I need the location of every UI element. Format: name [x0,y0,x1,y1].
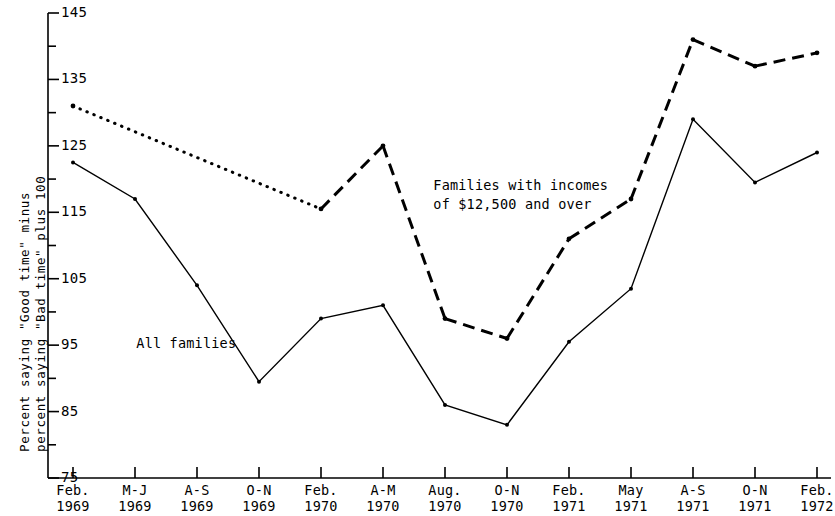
annotation-high-income: Families with incomes of $12,500 and ove… [400,157,608,233]
y-axis-title: Percent saying "Good time" minus percent… [0,0,46,516]
chart-axes [48,13,831,478]
y-tick-label: 95 [61,336,78,352]
annotation-all-families-label: All families [136,335,236,351]
x-tick-label: Feb.1972 [777,482,835,514]
y-axis-title-line-2: percent saying "Bad time" plus 100 [33,176,48,452]
y-tick-label: 105 [61,270,87,286]
annotation-all-families: All families [103,315,236,372]
x-tick-label-line-1: Feb. [777,482,835,498]
y-tick-label: 115 [61,203,87,219]
chart-plot-area [0,0,835,516]
y-tick-label: 135 [61,70,87,86]
y-tick-label: 85 [61,403,78,419]
y-tick-label: 125 [61,137,87,153]
annotation-high-income-line-2: of $12,500 and over [433,196,591,212]
chart-container: Percent saying "Good time" minus percent… [0,0,835,516]
annotation-high-income-line-1: Families with incomes [433,177,608,193]
y-tick-label: 145 [61,4,87,20]
x-tick-label-line-2: 1972 [777,498,835,514]
y-axis-title-line-1: Percent saying "Good time" minus [17,192,32,452]
